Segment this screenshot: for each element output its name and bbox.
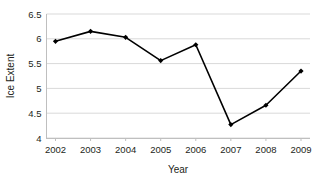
x-tick-label: 2009 (290, 144, 311, 155)
line-chart: 44.555.566.5 200220032004200520062007200… (0, 0, 321, 179)
x-tick-label: 2002 (45, 144, 66, 155)
y-tick-label: 5 (36, 83, 41, 94)
x-tick-label: 2003 (80, 144, 101, 155)
y-tick-label: 6 (36, 33, 41, 44)
x-axis-title: Year (168, 164, 189, 175)
x-tick-label: 2005 (150, 144, 171, 155)
x-tick-label: 2004 (115, 144, 136, 155)
x-tick-label: 2006 (185, 144, 206, 155)
x-tick-label: 2007 (220, 144, 241, 155)
y-tick-label: 5.5 (28, 58, 41, 69)
chart-canvas: 44.555.566.5 200220032004200520062007200… (0, 0, 321, 179)
y-tick-label: 4.5 (28, 108, 41, 119)
y-tick-label: 4 (36, 133, 41, 144)
y-axis-title: Ice Extent (5, 54, 16, 99)
x-tick-label: 2008 (255, 144, 276, 155)
y-tick-label: 6.5 (28, 9, 41, 20)
